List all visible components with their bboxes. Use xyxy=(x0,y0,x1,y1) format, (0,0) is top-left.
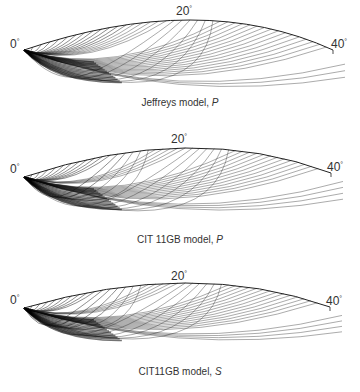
panel-caption: Jeffreys model, P xyxy=(0,98,360,108)
ray-path xyxy=(24,26,118,54)
ray-path xyxy=(24,22,151,55)
label-40-degrees: 40° xyxy=(326,295,342,307)
panel-caption: CIT 11GB model, P xyxy=(0,235,360,245)
label-0-degrees: 0° xyxy=(10,294,20,306)
ray-path xyxy=(24,25,126,54)
ray-path xyxy=(24,287,250,319)
label-40-degrees: 40° xyxy=(327,161,343,173)
ray-path xyxy=(24,156,103,180)
panel-cit11gb-p: 0° 20° 40° CIT 11GB model, P xyxy=(0,127,360,255)
ray-path xyxy=(24,35,76,53)
ray-path xyxy=(24,165,64,180)
ray-path xyxy=(24,155,110,181)
ray-path xyxy=(24,24,135,54)
label-0-degrees: 0° xyxy=(10,38,20,50)
label-20-degrees: 20° xyxy=(176,5,192,17)
label-20-degrees: 20° xyxy=(171,270,187,282)
label-0-degrees: 0° xyxy=(10,163,20,175)
panel-jeffreys-p: 0° 20° 40° Jeffreys model, P xyxy=(0,0,360,125)
label-40-degrees: 40° xyxy=(331,38,347,50)
ray-path xyxy=(24,296,72,311)
panel-cit11gb-s: 0° 20° 40° CIT11GB model, S xyxy=(0,258,360,392)
panel-caption: CIT11GB model, S xyxy=(0,367,360,377)
label-20-degrees: 20° xyxy=(171,133,187,145)
